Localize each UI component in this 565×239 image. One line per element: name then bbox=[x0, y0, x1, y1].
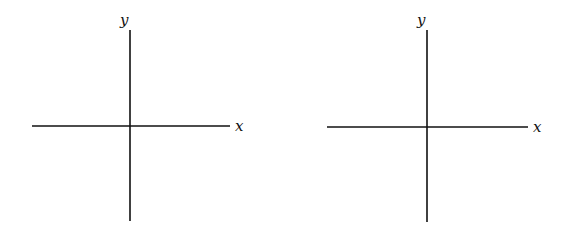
left-y-axis-label: y bbox=[119, 11, 129, 29]
left-coordinate-axes: x y bbox=[32, 11, 244, 221]
right-coordinate-axes: x y bbox=[327, 11, 542, 222]
right-y-axis-label: y bbox=[416, 11, 426, 29]
right-x-axis-label: x bbox=[533, 118, 542, 136]
left-x-axis-label: x bbox=[235, 117, 244, 135]
diagram-canvas: x y x y bbox=[0, 0, 565, 239]
